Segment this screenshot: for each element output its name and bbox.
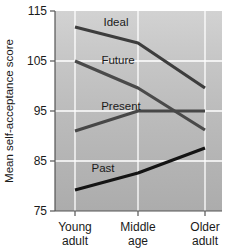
x-category-label-young-adult-line1: Young bbox=[58, 220, 92, 234]
x-tick-marks bbox=[75, 211, 205, 216]
series-label-ideal: Ideal bbox=[104, 16, 129, 28]
series-label-past: Past bbox=[91, 162, 115, 174]
y-tick-label-85: 85 bbox=[34, 154, 48, 168]
y-tick-label-95: 95 bbox=[34, 104, 48, 118]
chart-figure: Ideal Future Present Past 115 105 95 85 … bbox=[0, 0, 232, 248]
series-label-present: Present bbox=[101, 100, 141, 112]
y-tick-label-115: 115 bbox=[28, 4, 47, 18]
x-category-label-middle-age-line2: age bbox=[128, 234, 148, 248]
y-tick-label-105: 105 bbox=[27, 54, 47, 68]
x-category-label-middle-age-line1: Middle bbox=[120, 220, 156, 234]
y-tick-label-75: 75 bbox=[34, 204, 48, 218]
x-category-label-older-adult-line2: adult bbox=[192, 234, 219, 248]
y-axis-title: Mean self-acceptance score bbox=[3, 39, 15, 183]
series-label-future: Future bbox=[101, 54, 134, 66]
line-chart: Ideal Future Present Past 115 105 95 85 … bbox=[0, 0, 232, 248]
y-tick-marks bbox=[50, 11, 55, 211]
x-category-label-young-adult-line2: adult bbox=[62, 234, 89, 248]
x-category-label-older-adult-line1: Older bbox=[190, 220, 219, 234]
